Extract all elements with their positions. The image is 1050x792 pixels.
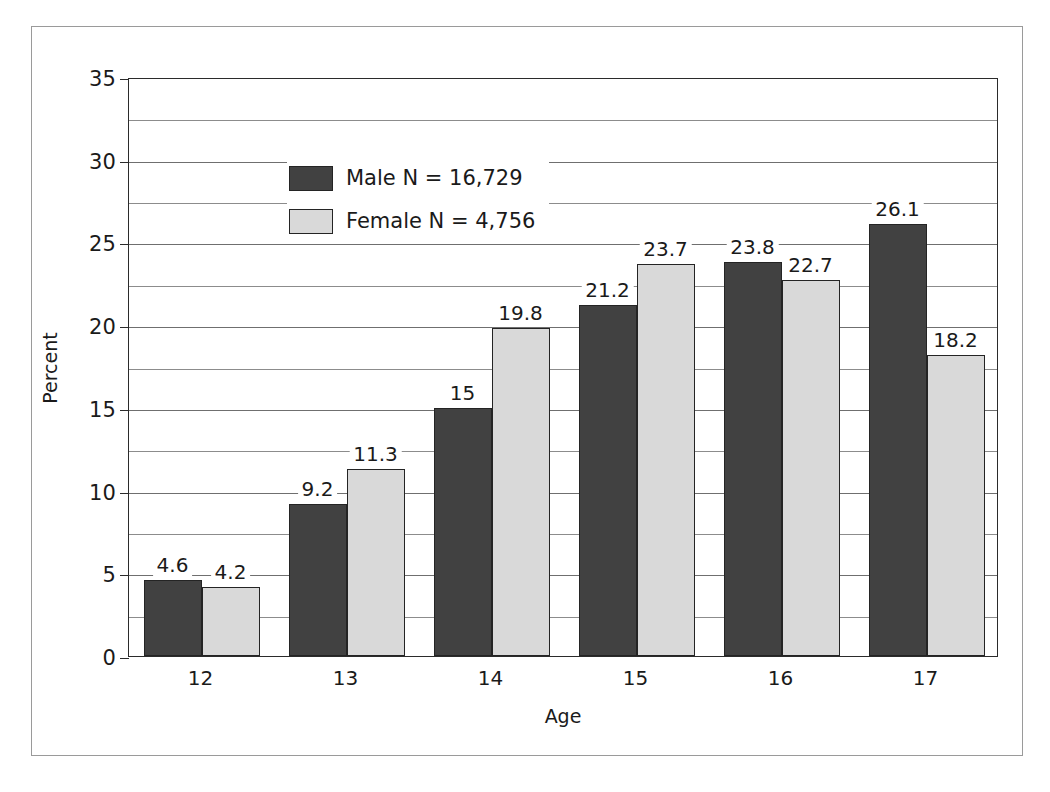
bar-value-label: 26.1	[871, 198, 924, 221]
legend-swatch-male	[289, 166, 333, 191]
bar-male-age-12	[144, 580, 202, 656]
legend-item: Female N = 4,756	[287, 202, 549, 240]
bar-male-age-13	[289, 504, 347, 656]
bar-male-age-15	[579, 305, 637, 656]
chart-legend: Male N = 16,729Female N = 4,756	[287, 159, 549, 245]
gridline	[129, 369, 997, 370]
x-axis-tick-label: 13	[333, 666, 358, 690]
bar-female-age-13	[347, 469, 405, 656]
gridline	[129, 327, 997, 328]
x-axis-tick-label: 14	[478, 666, 503, 690]
gridline	[129, 162, 997, 163]
y-axis-tick	[120, 575, 129, 576]
gridline	[129, 410, 997, 411]
bar-value-label: 18.2	[929, 329, 982, 352]
y-axis-tick	[120, 162, 129, 163]
y-axis-tick	[120, 493, 129, 494]
legend-swatch-female	[289, 209, 333, 234]
y-axis-tick	[120, 244, 129, 245]
gridline	[129, 203, 997, 204]
bar-value-label: 4.6	[153, 554, 193, 577]
bar-value-label: 9.2	[298, 478, 338, 501]
bar-female-age-17	[927, 355, 985, 656]
y-axis-tick-label: 20	[89, 315, 116, 339]
bar-female-age-15	[637, 264, 695, 656]
y-axis-tick-label: 5	[102, 563, 116, 587]
y-axis-title: Percent	[39, 332, 61, 404]
gridline	[129, 451, 997, 452]
y-axis-tick-label: 30	[89, 150, 116, 174]
bar-value-label: 23.7	[639, 238, 692, 261]
y-axis-tick-label: 0	[102, 646, 116, 670]
bar-female-age-12	[202, 587, 260, 656]
gridline	[129, 286, 997, 287]
y-axis-tick-label: 10	[89, 481, 116, 505]
gridline	[129, 244, 997, 245]
bar-female-age-16	[782, 280, 840, 656]
y-axis-tick-label: 25	[89, 232, 116, 256]
bar-male-age-16	[724, 262, 782, 656]
bar-value-label: 22.7	[784, 254, 837, 277]
bar-female-age-14	[492, 328, 550, 656]
bar-male-age-14	[434, 408, 492, 656]
legend-label: Male N = 16,729	[346, 166, 523, 190]
bar-value-label: 15	[446, 382, 479, 405]
x-axis-title: Age	[128, 705, 998, 727]
legend-item: Male N = 16,729	[287, 159, 549, 197]
gridline	[129, 120, 997, 121]
x-axis-tick-label: 16	[768, 666, 793, 690]
x-axis-tick-label: 15	[623, 666, 648, 690]
x-axis-tick-label: 17	[913, 666, 938, 690]
bar-value-label: 23.8	[726, 236, 779, 259]
plot-area: 05101520253035 4.64.29.211.31519.821.223…	[128, 78, 998, 657]
y-axis-tick-label: 15	[89, 398, 116, 422]
y-axis-tick-label: 35	[89, 67, 116, 91]
bar-value-label: 19.8	[494, 302, 547, 325]
bar-male-age-17	[869, 224, 927, 656]
bar-value-label: 21.2	[581, 279, 634, 302]
bar-value-label: 4.2	[211, 561, 251, 584]
y-axis-tick	[120, 658, 129, 659]
y-axis-tick	[120, 79, 129, 80]
chart-figure: Percent 05101520253035 4.64.29.211.31519…	[0, 0, 1050, 792]
gridline	[129, 534, 997, 535]
gridline	[129, 493, 997, 494]
bar-value-label: 11.3	[349, 443, 402, 466]
gridline	[129, 575, 997, 576]
y-axis-tick	[120, 327, 129, 328]
y-axis-tick	[120, 410, 129, 411]
legend-label: Female N = 4,756	[346, 209, 535, 233]
x-axis-tick-label: 12	[188, 666, 213, 690]
